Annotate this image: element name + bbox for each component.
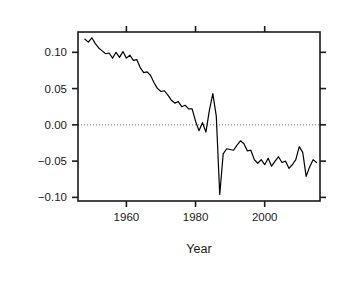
svg-text:−0.10: −0.10 — [38, 191, 67, 203]
x-axis-tick-labels: 196019802000 — [114, 211, 278, 223]
chart-background — [0, 0, 346, 283]
svg-text:1980: 1980 — [183, 211, 209, 223]
chart-figure: 0.100.050.00−0.05−0.10 196019802000 Year — [0, 0, 346, 283]
svg-text:2000: 2000 — [252, 211, 278, 223]
x-axis-title: Year — [186, 242, 211, 256]
line-chart: 0.100.050.00−0.05−0.10 196019802000 Year — [0, 0, 346, 283]
svg-text:1960: 1960 — [114, 211, 140, 223]
svg-text:0.05: 0.05 — [45, 83, 67, 95]
svg-text:−0.05: −0.05 — [38, 155, 67, 167]
svg-text:0.10: 0.10 — [45, 46, 67, 58]
svg-text:0.00: 0.00 — [45, 119, 67, 131]
